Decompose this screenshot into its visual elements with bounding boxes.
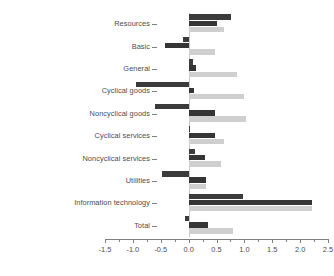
x-tick-minor	[286, 239, 287, 242]
x-tick-label: 2.0	[288, 245, 312, 254]
bar	[189, 59, 193, 64]
bar	[185, 216, 189, 221]
bar-group	[105, 103, 328, 125]
x-tick-major	[161, 239, 162, 243]
x-axis: -1.5-1.0-0.50.00.51.01.52.02.5	[105, 239, 328, 269]
x-tick-major	[105, 239, 106, 243]
bar-chart: ResourcesBasicGeneralCyclical goodsNoncy…	[0, 0, 334, 276]
bar-group	[105, 35, 328, 57]
bar	[162, 171, 188, 176]
bar	[189, 200, 313, 205]
bar-group	[105, 147, 328, 169]
x-tick-major	[272, 239, 273, 243]
bar	[189, 161, 221, 166]
bar	[189, 110, 216, 115]
x-tick-major	[133, 239, 134, 243]
x-tick-label: 0.0	[177, 245, 201, 254]
bar	[136, 82, 189, 87]
bar-group	[105, 125, 328, 147]
bar	[165, 43, 188, 48]
bar	[189, 27, 224, 32]
bar	[189, 149, 195, 154]
bar-group	[105, 170, 328, 192]
bar-group	[105, 192, 328, 214]
bar	[189, 139, 225, 144]
x-tick-label: 1.0	[232, 245, 256, 254]
x-tick-minor	[258, 239, 259, 242]
x-tick-major	[244, 239, 245, 243]
x-tick-label: 1.5	[260, 245, 284, 254]
x-tick-minor	[119, 239, 120, 242]
bar	[189, 14, 231, 19]
bar	[189, 133, 216, 138]
x-tick-minor	[230, 239, 231, 242]
bar	[155, 104, 188, 109]
x-tick-major	[217, 239, 218, 243]
x-tick-minor	[175, 239, 176, 242]
x-tick-minor	[314, 239, 315, 242]
plot-area	[105, 13, 328, 237]
x-tick-minor	[203, 239, 204, 242]
bar-group	[105, 58, 328, 80]
bar-group	[105, 80, 328, 102]
bar-group	[105, 13, 328, 35]
bar	[189, 228, 234, 233]
x-tick-label: -0.5	[149, 245, 173, 254]
bar	[189, 177, 207, 182]
bar	[189, 116, 246, 121]
bar	[189, 94, 245, 99]
bar	[189, 65, 196, 70]
bar	[189, 222, 209, 227]
x-tick-major	[328, 239, 329, 243]
bar	[189, 194, 243, 199]
x-tick-label: 2.5	[316, 245, 334, 254]
x-tick-label: -1.5	[93, 245, 117, 254]
bar	[189, 206, 313, 211]
bar	[189, 88, 195, 93]
x-tick-major	[189, 239, 190, 243]
bar	[189, 72, 238, 77]
bar	[189, 49, 216, 54]
bar	[189, 126, 190, 131]
bar-group	[105, 215, 328, 237]
x-tick-label: -1.0	[121, 245, 145, 254]
bar	[189, 155, 205, 160]
bar	[189, 184, 206, 189]
x-tick-label: 0.5	[205, 245, 229, 254]
x-tick-minor	[147, 239, 148, 242]
x-tick-major	[300, 239, 301, 243]
bar	[189, 21, 217, 26]
bar	[183, 37, 189, 42]
